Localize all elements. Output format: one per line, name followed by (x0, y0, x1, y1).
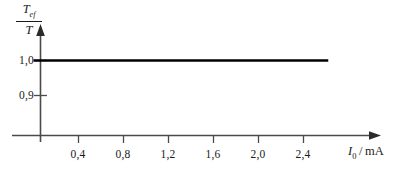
x-axis-arrowhead (369, 131, 381, 139)
y-tick-label-1: 1,0 (6, 54, 34, 66)
y-axis-label: Tef T (9, 3, 49, 36)
x-tick-label-4: 1,6 (196, 148, 230, 160)
chart-figure: Tef T 1,0 0,9 0,4 0,8 1,2 1,6 2,0 2,4 I0… (0, 0, 412, 175)
x-tick-label-1: 0,4 (61, 148, 95, 160)
x-axis-label-unit: / mA (356, 144, 383, 158)
fraction-bar-icon (16, 21, 42, 22)
x-tick-label-5: 2,0 (241, 148, 275, 160)
x-tick-label-2: 0,8 (106, 148, 140, 160)
y-axis-label-denominator: T (9, 23, 49, 37)
y-tick-label-2: 0,9 (6, 89, 34, 101)
x-axis-label: I0 / mA (348, 144, 384, 161)
y-axis-label-numerator: Tef (9, 3, 49, 20)
x-tick-label-3: 1,2 (151, 148, 185, 160)
x-tick-label-6: 2,4 (286, 148, 320, 160)
